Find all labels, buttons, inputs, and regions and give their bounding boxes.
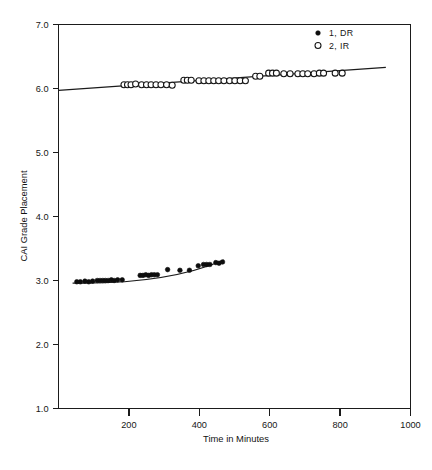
- x-tick-label: 800: [332, 420, 347, 430]
- data-point: [187, 268, 192, 273]
- chart-figure: 1.02.03.04.05.06.07.0 2004006008001000 T…: [0, 0, 432, 470]
- legend: 1, DR2, IR: [315, 28, 354, 51]
- legend-label: 2, IR: [329, 41, 350, 51]
- data-point: [332, 70, 338, 76]
- x-tick-label: 1000: [400, 420, 420, 430]
- data-point: [321, 70, 327, 76]
- data-point: [273, 70, 279, 76]
- data-points: [75, 70, 346, 284]
- data-point: [164, 82, 170, 88]
- y-tick-label: 5.0: [36, 148, 49, 158]
- y-tick-label: 1.0: [36, 404, 49, 414]
- x-tick-label: 600: [262, 420, 277, 430]
- x-axis-ticks: 2004006008001000: [121, 409, 420, 430]
- data-point: [221, 78, 227, 84]
- data-point: [178, 268, 183, 273]
- legend-label: 1, DR: [329, 28, 354, 38]
- legend-marker-open-circle-icon: [315, 43, 321, 49]
- y-axis-title: CAI Grade Placement: [18, 170, 29, 262]
- data-point: [78, 279, 83, 284]
- data-point: [158, 82, 164, 88]
- data-point: [169, 82, 175, 88]
- data-point: [120, 278, 125, 283]
- scatter-plot: 1.02.03.04.05.06.07.0 2004006008001000 T…: [0, 0, 432, 470]
- data-point: [165, 267, 170, 272]
- x-axis-title: Time in Minutes: [203, 433, 269, 444]
- y-tick-label: 6.0: [36, 84, 49, 94]
- y-axis-ticks: 1.02.03.04.05.06.07.0: [36, 20, 59, 414]
- data-point: [208, 262, 213, 267]
- data-point: [196, 263, 201, 268]
- y-tick-label: 7.0: [36, 20, 49, 30]
- regression-lines: [59, 67, 386, 283]
- data-point: [339, 70, 345, 76]
- data-point: [90, 279, 95, 284]
- data-point: [257, 73, 263, 79]
- y-tick-label: 4.0: [36, 212, 49, 222]
- y-tick-label: 3.0: [36, 276, 49, 286]
- x-tick-label: 200: [121, 420, 136, 430]
- data-point: [287, 71, 293, 77]
- data-point: [155, 272, 160, 277]
- data-point: [305, 71, 311, 77]
- data-point: [281, 71, 287, 77]
- legend-marker-filled-circle-icon: [316, 31, 321, 36]
- data-point: [220, 260, 225, 265]
- data-point: [133, 81, 139, 87]
- y-tick-label: 2.0: [36, 340, 49, 350]
- data-point: [188, 77, 194, 83]
- x-tick-label: 400: [192, 420, 207, 430]
- data-point: [115, 278, 120, 283]
- data-point: [242, 78, 248, 84]
